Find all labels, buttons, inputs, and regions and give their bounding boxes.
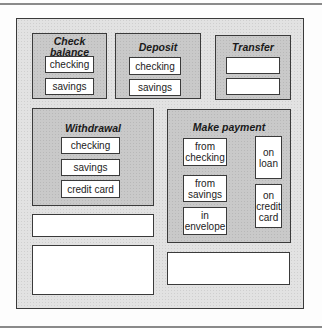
display-field-3[interactable] [167,252,290,285]
pay-from-savings-button[interactable]: from savings [183,175,227,202]
withdrawal-savings-button[interactable]: savings [61,159,120,176]
transfer-field-1[interactable] [226,57,280,74]
withdrawal-title: Withdrawal [33,123,153,134]
deposit-title: Deposit [116,42,200,53]
pay-on-loan-button[interactable]: on loan [255,136,282,179]
display-field-2[interactable] [32,245,154,295]
pay-in-envelope-button[interactable]: in envelope [183,207,227,235]
transfer-title: Transfer [216,42,290,53]
make-payment-title: Make payment [168,122,290,133]
withdrawal-credit-card-button[interactable]: credit card [61,180,120,198]
pay-on-credit-card-button[interactable]: on credit card [255,184,282,228]
check-balance-title: Check balance [33,36,106,58]
check-balance-checking-button[interactable]: checking [45,56,94,73]
withdrawal-checking-button[interactable]: checking [61,137,120,154]
deposit-savings-button[interactable]: savings [129,79,181,96]
display-field-1[interactable] [32,214,154,237]
top-rule [0,3,322,5]
check-balance-savings-button[interactable]: savings [45,78,94,95]
pay-from-checking-button[interactable]: from checking [183,138,227,166]
deposit-checking-button[interactable]: checking [129,57,181,75]
transfer-field-2[interactable] [226,78,280,95]
